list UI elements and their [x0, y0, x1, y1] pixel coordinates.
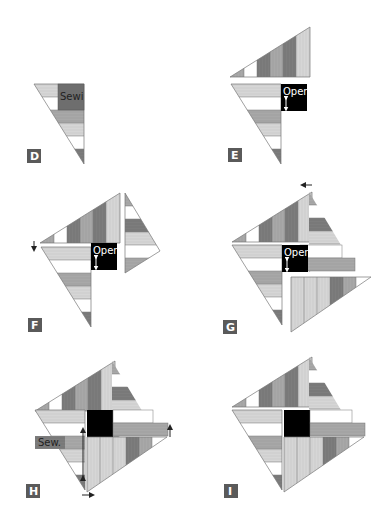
- panel-e-label: E: [231, 149, 239, 162]
- panel-d-label: D: [30, 150, 39, 163]
- panel-f: Open F: [28, 193, 160, 332]
- panel-i-label: I: [228, 485, 232, 498]
- panel-f-label: F: [31, 319, 39, 332]
- panel-h: Sew. H: [26, 361, 170, 498]
- panel-g-note: Open: [284, 247, 311, 258]
- quilt-diagram: Sewi D Open E Open: [0, 0, 388, 528]
- panel-h-note: Sew.: [38, 437, 61, 448]
- panel-g-label: G: [226, 321, 235, 334]
- panel-i: I: [224, 357, 365, 498]
- panel-f-note: Open: [93, 245, 120, 256]
- panel-e-note: Open: [283, 86, 310, 97]
- panel-d: Sewi D: [27, 84, 84, 164]
- panel-e: Open E: [228, 27, 310, 164]
- panel-d-note: Sewi: [60, 91, 83, 102]
- panel-h-label: H: [29, 485, 38, 498]
- panel-g: Open G: [223, 185, 371, 334]
